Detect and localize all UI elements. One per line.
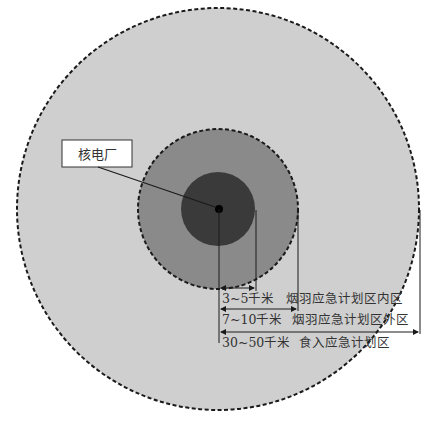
inner-zone-description: 烟羽应急计划区内区 (286, 291, 403, 306)
nuclear-plant-label: 核电厂 (78, 147, 117, 162)
outer-zone-description: 食入应急计划区 (299, 335, 390, 350)
inner-zone-label: 3~5千米 烟羽应急计划区内区 (222, 291, 403, 306)
inner-zone-distance: 3~5千米 (222, 291, 274, 306)
middle-zone-distance: 7~10千米 (222, 312, 282, 327)
middle-zone-description: 烟羽应急计划区外区 (292, 312, 409, 327)
outer-zone-label: 30~50千米 食入应急计划区 (222, 335, 390, 350)
middle-zone-label: 7~10千米 烟羽应急计划区外区 (222, 312, 409, 327)
outer-zone-distance: 30~50千米 (222, 335, 290, 350)
emergency-planning-zone-diagram: 核电厂 3~5千米 烟羽应急计划区内区 7~10千米 烟羽应急计划区外区 30~… (0, 0, 434, 422)
